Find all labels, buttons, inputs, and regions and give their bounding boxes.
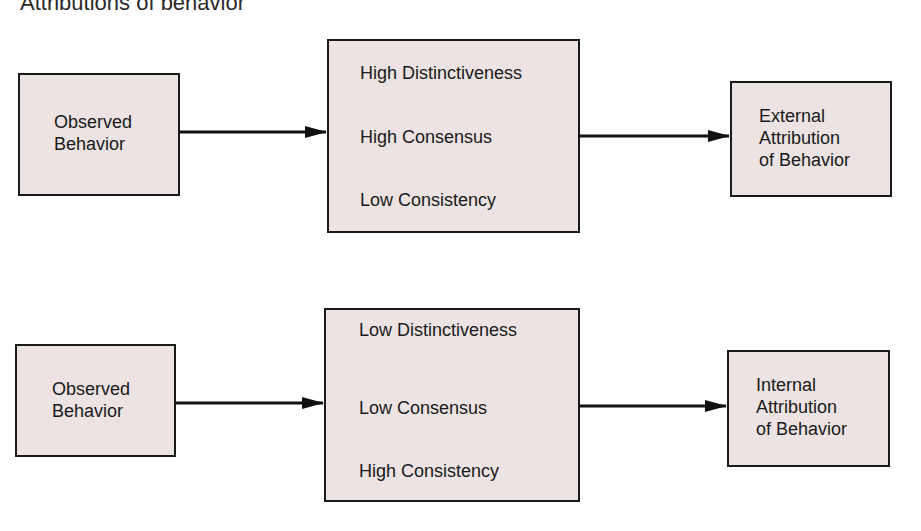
top-factors-box: High Distinctiveness High Consensus Low … — [327, 39, 580, 233]
bottom-observed-behavior-box: Observed Behavior — [15, 344, 176, 457]
bottom-factor-consistency: High Consistency — [359, 461, 499, 482]
top-output-line2: Attribution — [759, 127, 850, 149]
internal-attribution-box: Internal Attribution of Behavior — [727, 350, 890, 467]
bottom-factor-distinctiveness: Low Distinctiveness — [359, 320, 517, 341]
bottom-factors-box: Low Distinctiveness Low Consensus High C… — [324, 308, 580, 502]
top-output-line1: External — [759, 105, 850, 127]
top-input-line1: Observed — [54, 111, 132, 133]
external-attribution-box: External Attribution of Behavior — [730, 81, 892, 197]
bottom-output-line1: Internal — [756, 374, 847, 396]
top-factor-distinctiveness: High Distinctiveness — [360, 63, 522, 84]
top-observed-behavior-box: Observed Behavior — [18, 73, 180, 196]
bottom-input-line2: Behavior — [52, 400, 130, 422]
top-factor-consensus: High Consensus — [360, 127, 492, 148]
top-output-line3: of Behavior — [759, 149, 850, 171]
top-factor-consistency: Low Consistency — [360, 190, 496, 211]
bottom-input-line1: Observed — [52, 378, 130, 400]
top-input-line2: Behavior — [54, 133, 132, 155]
bottom-factor-consensus: Low Consensus — [359, 398, 487, 419]
bottom-output-line3: of Behavior — [756, 418, 847, 440]
bottom-output-line2: Attribution — [756, 396, 847, 418]
